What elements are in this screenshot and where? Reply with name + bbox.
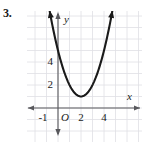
- y-tick-label-2: 2: [48, 78, 54, 90]
- figure-container: 3. y x O: [0, 0, 149, 152]
- x-axis-label: x: [126, 90, 132, 102]
- x-tick-label-minus1: -1: [38, 111, 47, 123]
- coordinate-plane: y x O -1 2 4 2 4: [27, 11, 142, 142]
- y-axis-label: y: [63, 13, 69, 25]
- x-tick-label-4: 4: [101, 111, 107, 123]
- y-tick-label-4: 4: [48, 55, 54, 67]
- plot-svg: y x O -1 2 4 2 4: [27, 11, 142, 142]
- origin-label: O: [61, 111, 69, 123]
- x-tick-label-2: 2: [78, 111, 84, 123]
- problem-number-label: 3.: [3, 6, 11, 21]
